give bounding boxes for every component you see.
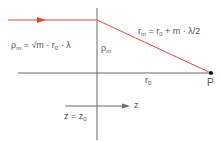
point-p-label: P	[207, 78, 214, 88]
point-p-marker	[209, 71, 213, 75]
rm-formula: rm = r0 + m · λ/2	[138, 27, 200, 37]
point-p-text: P	[207, 77, 214, 88]
rho-formula: ρm = √m · r0 · λ	[11, 41, 71, 51]
rho-m-sub: m	[106, 48, 111, 54]
r0-label: r0	[145, 76, 151, 86]
z-text: z	[134, 100, 139, 110]
rho-formula-rhs: = √m · r	[21, 40, 55, 50]
rm-mid: = r	[146, 26, 159, 36]
plane-lhs: z = z	[64, 111, 83, 121]
z-arrow-icon	[122, 104, 130, 109]
rm-tail: + m · λ/2	[163, 26, 201, 36]
z-axis-label: z	[134, 101, 139, 110]
rho-m-label: ρm	[101, 44, 111, 54]
ray-arrow-icon	[37, 17, 46, 23]
r0-label-sub: 0	[148, 80, 151, 86]
rho-formula-tail: · λ	[58, 40, 71, 50]
diagram-canvas	[0, 0, 221, 141]
plane-label: z = z0	[64, 112, 87, 122]
plane-sub: 0	[83, 116, 86, 122]
